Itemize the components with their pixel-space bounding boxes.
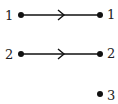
domain-label-2: 2: [5, 48, 13, 61]
domain-label-1: 1: [5, 9, 13, 22]
codomain-node-1: [97, 12, 103, 18]
codomain-label-3: 3: [107, 89, 115, 102]
mapping-diagram: 1 2 1 2 3: [0, 0, 118, 104]
codomain-node-3: [97, 91, 103, 97]
diagram-canvas: [0, 0, 118, 104]
domain-node-2: [18, 51, 24, 57]
domain-node-1: [18, 12, 24, 18]
codomain-label-2: 2: [107, 47, 115, 60]
codomain-label-1: 1: [107, 8, 115, 21]
codomain-node-2: [97, 51, 103, 57]
